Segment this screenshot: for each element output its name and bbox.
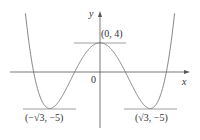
x-axis-label: x — [182, 77, 186, 87]
x-axis-arrow-icon — [184, 70, 190, 74]
max-point-label: (0, 4) — [101, 29, 123, 39]
y-axis-arrow-icon — [98, 11, 102, 17]
origin-label: 0 — [91, 75, 96, 85]
min-left-point-label: (−√3, −5) — [25, 113, 63, 123]
y-axis-label: y — [89, 9, 93, 19]
min-right-point-label: (√3, −5) — [135, 113, 168, 123]
graph-figure: y x 0 (0, 4) (−√3, −5) (√3, −5) — [0, 0, 200, 140]
